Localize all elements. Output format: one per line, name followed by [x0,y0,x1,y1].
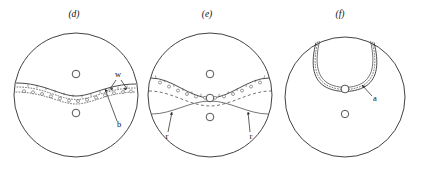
panel-f-loop-outer-edge [313,43,377,92]
panel-e-label-r-right: r [250,131,253,141]
panel-d-lower-vertex [72,109,80,117]
panel-f-center-vertex [341,110,348,117]
figure-canvas: (d) [0,0,425,179]
panel-f-loop-inner-edge [317,41,373,87]
panel-e-annotation-r-left: r [166,112,173,141]
panel-d-label-w: w [115,69,122,79]
panel-f-loop-mid-dotted [315,42,375,90]
panel-d: (d) [14,9,138,157]
panel-e-mid-vertex [206,94,214,102]
panel-e-r-right-leader [248,112,250,132]
panel-d-disk-outline [14,33,138,157]
panel-e: (e) [148,9,272,157]
panel-e-upper-vertex [206,70,214,78]
panel-d-annotation-b: b [105,89,121,129]
panel-e-lower-curve [152,101,268,114]
panel-f-label: (f) [336,9,345,20]
panel-e-label-r-left: r [166,131,169,141]
panel-e-lower-vertex [206,113,214,121]
panel-f-disk-outline [285,37,405,157]
figure-container: (d) [0,0,425,179]
panel-e-tick-row [155,75,264,96]
panel-f-annotation-a: a [362,85,377,103]
panel-e-annotation-r-right: r [247,112,253,141]
panel-f-loop-vertex [341,85,349,93]
panel-e-r-left-leader [168,112,172,132]
panel-e-label: (e) [202,9,213,20]
panel-e-r-left-arrowhead [170,112,173,115]
panel-f: (f) a [285,9,405,157]
panel-d-upper-vertex [72,70,80,78]
panel-f-label-a: a [373,93,377,103]
panel-d-label-b: b [117,119,121,129]
panel-d-label: (d) [68,9,79,20]
